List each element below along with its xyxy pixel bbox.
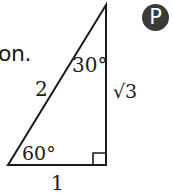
bottom-angle-label: 60° xyxy=(22,142,56,164)
horizontal-leg-label: 1 xyxy=(51,171,64,193)
triangle-diagram: 30° 2 √3 60° 1 xyxy=(0,0,173,193)
top-angle-label: 30° xyxy=(72,53,107,77)
right-triangle xyxy=(8,5,106,165)
hypotenuse-label: 2 xyxy=(35,77,48,101)
vertical-leg-label: √3 xyxy=(113,80,137,102)
right-angle-marker xyxy=(93,153,106,165)
